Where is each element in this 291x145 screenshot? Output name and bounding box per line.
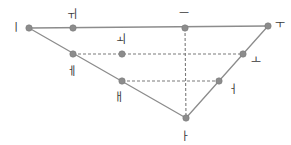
solid-line-left-front-edge: [29, 28, 186, 118]
dashed-line-center-vertical: [185, 28, 186, 118]
vowel-point-wi[interactable]: [70, 25, 76, 31]
vowel-point-a[interactable]: [183, 115, 189, 121]
dashed-lines-group: [73, 28, 243, 118]
vowel-point-ae[interactable]: [119, 78, 125, 84]
vowel-label-o: ㅗ: [251, 55, 261, 66]
solid-line-right-back-edge: [186, 26, 268, 118]
vowel-point-eo[interactable]: [216, 78, 222, 84]
vowel-point-eu[interactable]: [182, 25, 188, 31]
solid-line-top-edge: [29, 26, 268, 28]
vowel-point-i[interactable]: [26, 25, 32, 31]
vowel-points-group: [26, 23, 271, 121]
vowel-point-e[interactable]: [70, 51, 76, 57]
vowel-chart-svg: [0, 0, 291, 145]
vowel-label-oe: ㅚ: [116, 34, 126, 45]
vowel-point-o[interactable]: [240, 51, 246, 57]
vowel-label-u: ㅜ: [275, 19, 285, 30]
vowel-label-eo: ㅓ: [228, 84, 238, 95]
vowel-chart-canvas: ㅣㅟㅡㅜㅔㅚㅗㅐㅓㅏ: [0, 0, 291, 145]
vowel-label-eu: ㅡ: [179, 8, 189, 19]
solid-lines-group: [29, 26, 268, 118]
vowel-label-ae: ㅐ: [114, 92, 124, 103]
vowel-point-u[interactable]: [265, 23, 271, 29]
vowel-label-a: ㅏ: [180, 131, 190, 142]
vowel-label-wi: ㅟ: [67, 9, 77, 20]
vowel-point-oe[interactable]: [119, 51, 125, 57]
vowel-label-e: ㅔ: [67, 66, 77, 77]
vowel-label-i: ㅣ: [11, 22, 21, 33]
